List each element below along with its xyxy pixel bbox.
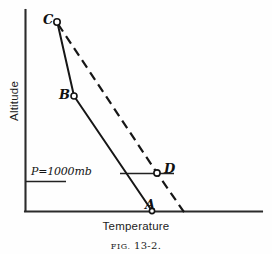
y-axis-label: Altitude <box>8 81 20 121</box>
x-axis-label: Temperature <box>103 220 170 232</box>
point-label-c: C <box>43 13 53 26</box>
point-label-a: A <box>145 198 155 211</box>
point-marker-c <box>54 19 60 25</box>
point-marker-d <box>154 170 160 176</box>
y-axis-label-wrapper: Altitude <box>4 66 22 136</box>
point-label-d: D <box>164 162 175 175</box>
x-axis-label-wrapper: Temperature <box>0 216 272 234</box>
solid-sounding-curve <box>58 23 153 211</box>
point-label-b: B <box>59 88 70 101</box>
figure-container: Altitude Temperature P=1000mb C B D A FI… <box>0 0 272 254</box>
point-marker-b <box>71 93 77 99</box>
figure-caption: FIG. 13-2. <box>0 235 272 253</box>
caption-prefix: FIG. <box>111 242 131 251</box>
pressure-annotation-label: P=1000mb <box>31 166 92 177</box>
dashed-process-curve <box>58 24 186 215</box>
caption-number: 13-2. <box>134 240 161 251</box>
